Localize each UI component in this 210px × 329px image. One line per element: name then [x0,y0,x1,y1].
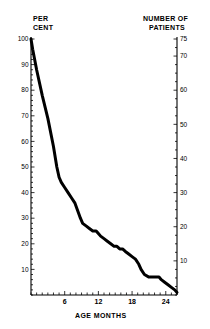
left-axis-tick-label: 90 [21,61,29,68]
right-axis-title-line1: NUMBER OF [143,15,189,22]
left-axis-tick-label: 70 [21,112,29,119]
x-axis-tick-label: 24 [162,298,170,305]
left-axis-tick-label: 10 [21,266,29,273]
left-axis-tick-label: 30 [21,214,29,221]
x-axis-tick-label: 12 [94,298,102,305]
right-axis-tick-label: 20 [180,223,188,230]
x-axis-tick-label: 18 [128,298,136,305]
right-axis-tick-label: 60 [180,86,188,93]
left-axis-tick-label: 20 [21,240,29,247]
axes-group: 1020304050607080901001020304050607075612… [18,35,188,304]
left-axis-tick-label: 80 [21,86,29,93]
left-axis-title-line1: PER [33,15,48,22]
left-axis-tick-label: 100 [18,35,29,42]
data-series-line [31,39,177,292]
left-axis-title-line2: CENT [33,24,54,31]
left-axis-tick-label: 40 [21,189,29,196]
x-axis-tick-label: 6 [63,298,67,305]
right-axis-tick-label: 30 [180,189,188,196]
right-axis-tick-label: 10 [180,257,188,264]
right-axis-title-line2: PATIENTS [149,24,185,31]
chart-figure: PER CENT NUMBER OF PATIENTS AGE MONTHS 1… [0,0,210,329]
right-axis-tick-label: 50 [180,121,188,128]
right-axis-tick-label: 75 [180,35,188,42]
data-line-group [31,39,177,292]
left-axis-tick-label: 50 [21,163,29,170]
left-axis-tick-label: 60 [21,138,29,145]
right-axis-tick-label: 40 [180,155,188,162]
line-chart: PER CENT NUMBER OF PATIENTS AGE MONTHS 1… [0,0,210,329]
right-axis-tick-label: 70 [180,52,188,59]
x-axis-title: AGE MONTHS [75,312,126,319]
